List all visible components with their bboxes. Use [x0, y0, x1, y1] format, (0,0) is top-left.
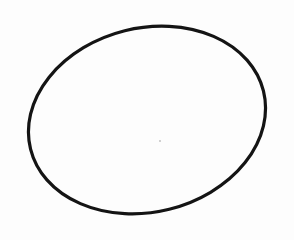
hand-drawn-ellipse — [8, 2, 285, 239]
center-dot — [159, 140, 161, 142]
drawing-canvas — [0, 0, 294, 240]
sketch-svg — [0, 0, 294, 240]
